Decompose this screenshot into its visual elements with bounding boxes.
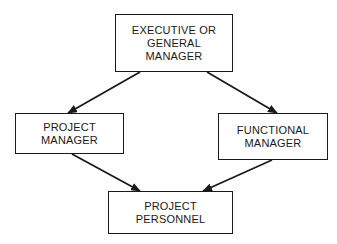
node-project-manager: PROJECT MANAGER bbox=[15, 113, 124, 154]
node-label-line: MANAGER bbox=[244, 137, 301, 150]
node-label-line: PERSONNEL bbox=[136, 213, 206, 226]
arrow-functional-manager-to-personnel bbox=[203, 160, 272, 191]
node-label-line: MANAGER bbox=[41, 134, 98, 147]
arrow-executive-to-functional-manager bbox=[207, 72, 277, 113]
node-label-line: GENERAL bbox=[147, 37, 201, 50]
node-label-line: EXECUTIVE OR bbox=[132, 24, 216, 37]
arrow-project-manager-to-personnel bbox=[72, 154, 140, 191]
arrow-executive-to-project-manager bbox=[68, 72, 140, 113]
node-project-personnel: PROJECT PERSONNEL bbox=[108, 191, 233, 234]
node-label-line: PROJECT bbox=[144, 200, 197, 213]
node-executive-general-manager: EXECUTIVE OR GENERAL MANAGER bbox=[115, 14, 233, 72]
node-label-line: MANAGER bbox=[145, 50, 202, 63]
node-label-line: FUNCTIONAL bbox=[237, 124, 309, 137]
org-diagram: EXECUTIVE OR GENERAL MANAGER PROJECT MAN… bbox=[0, 0, 337, 244]
node-label-line: PROJECT bbox=[43, 121, 96, 134]
node-functional-manager: FUNCTIONAL MANAGER bbox=[218, 113, 328, 160]
